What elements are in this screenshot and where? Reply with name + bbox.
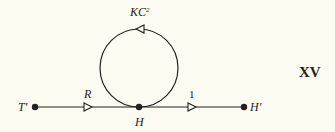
node-hprime xyxy=(241,104,247,110)
arrow-r-icon xyxy=(84,103,92,111)
gain-label-loop-sup: 2 xyxy=(146,6,150,14)
gain-label-loop-base: KC xyxy=(129,5,147,19)
node-label-hprime: H' xyxy=(249,100,262,114)
node-label-tprime: T' xyxy=(18,100,28,114)
gain-label-loop: KC2 xyxy=(129,5,150,19)
self-loop-h xyxy=(100,29,178,107)
figure-label: XV xyxy=(299,64,321,80)
node-label-h: H xyxy=(134,115,145,129)
node-tprime xyxy=(32,104,38,110)
node-h xyxy=(136,104,142,110)
gain-label-unity: 1 xyxy=(189,88,195,100)
signal-flow-diagram: T' H H' R 1 KC2 XV xyxy=(0,0,335,132)
arrow-unity-icon xyxy=(188,103,196,111)
arrow-loop-icon xyxy=(136,25,144,33)
gain-label-r: R xyxy=(83,87,92,101)
diagram-canvas: T' H H' R 1 KC2 XV xyxy=(0,0,335,132)
